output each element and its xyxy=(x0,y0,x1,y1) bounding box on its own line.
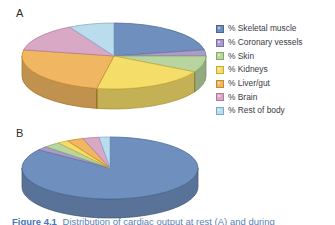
legend-swatch-icon xyxy=(216,39,224,47)
figure-caption: Figure 4.1 Distribution of cardiac outpu… xyxy=(12,217,332,225)
legend-item-label: % Liver/gut xyxy=(228,79,270,88)
legend-swatch-icon xyxy=(216,25,224,33)
legend-swatch-icon xyxy=(216,66,224,74)
legend-item: % Kidneys xyxy=(216,63,334,77)
legend-item: % Liver/gut xyxy=(216,77,334,91)
caption-body: Distribution of cardiac output at rest (… xyxy=(63,217,275,225)
legend-item: % Skeletal muscle xyxy=(216,22,334,36)
pie-chart-a xyxy=(18,14,210,110)
legend-item: % Skin xyxy=(216,49,334,63)
caption-figure-number: Figure 4.1 xyxy=(12,217,57,225)
legend-item: % Brain xyxy=(216,90,334,104)
legend-swatch-icon xyxy=(216,52,224,60)
legend-item-label: % Kidneys xyxy=(228,65,268,74)
legend-item: % Coronary vessels xyxy=(216,36,334,50)
legend-item-label: % Coronary vessels xyxy=(228,38,302,47)
legend-swatch-icon xyxy=(216,80,224,88)
legend-item-label: % Rest of body xyxy=(228,106,285,115)
legend-swatch-icon xyxy=(216,93,224,101)
figure-canvas: A B % Skeletal muscle% Coronary vessels%… xyxy=(0,0,335,225)
legend-item: % Rest of body xyxy=(216,104,334,118)
pie-chart-b xyxy=(18,130,210,214)
legend-item-label: % Skin xyxy=(228,52,254,61)
legend-item-label: % Brain xyxy=(228,93,257,102)
chart-legend: % Skeletal muscle% Coronary vessels% Ski… xyxy=(216,22,334,118)
legend-swatch-icon xyxy=(216,107,224,115)
legend-item-label: % Skeletal muscle xyxy=(228,24,296,33)
